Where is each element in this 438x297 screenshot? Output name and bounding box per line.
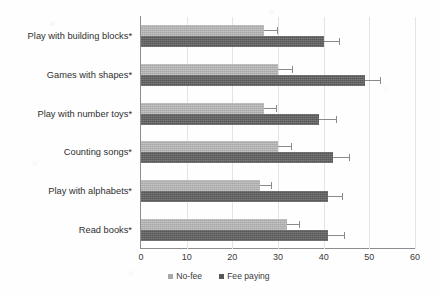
bar-feepaying [141,75,365,86]
category-label: Play with building blocks* [0,31,132,41]
error-bar-whisker [278,69,292,70]
category-label: Read books* [0,225,132,235]
legend-item-nofee: No-fee [168,271,202,281]
error-bar-whisker [319,119,335,120]
bar-group [141,94,415,133]
error-bar-whisker [278,146,291,147]
error-bar-cap [291,143,292,150]
error-bar-whisker [328,235,344,236]
category-label: Play with number toys* [0,109,132,119]
x-tick-label-30: 30 [273,252,283,262]
bar-feepaying [141,36,324,47]
bar-nofee [141,219,287,230]
bar-feepaying [141,230,328,241]
bar-nofee [141,103,264,114]
error-bar-whisker [264,30,276,31]
x-tick-label-10: 10 [182,252,192,262]
error-bar-cap [380,77,381,84]
error-bar-whisker [328,196,342,197]
category-axis-labels: Play with building blocks*Games with sha… [0,17,136,249]
bar-feepaying [141,114,319,125]
gridline-60 [415,17,416,249]
x-tick-label-0: 0 [138,252,143,262]
value-axis-tick-labels: 0102030405060 [141,252,415,266]
bar-nofee [141,25,264,36]
error-bar-whisker [365,80,380,81]
category-label: Play with alphabets* [0,186,132,196]
error-bar-cap [277,27,278,34]
bar-group [141,172,415,211]
bar-chart-figure: Play with building blocks*Games with sha… [0,0,438,297]
nofee-swatch [168,274,173,279]
bar-feepaying [141,191,328,202]
error-bar-cap [342,193,343,200]
x-tick-label-40: 40 [319,252,329,262]
error-bar-whisker [260,185,271,186]
error-bar-cap [292,66,293,73]
bar-group [141,56,415,95]
error-bar-cap [339,38,340,45]
error-bar-whisker [264,108,276,109]
legend-label: No-fee [176,271,202,281]
error-bar-whisker [333,157,349,158]
error-bar-cap [299,221,300,228]
bar-feepaying [141,152,333,163]
category-label: Games with shapes* [0,70,132,80]
x-tick-label-50: 50 [364,252,374,262]
bar-group [141,133,415,172]
x-tick-label-60: 60 [410,252,420,262]
plot-area [141,17,415,249]
bar-group [141,17,415,56]
category-label: Counting songs* [0,147,132,157]
error-bar-cap [344,232,345,239]
legend-label: Fee paying [227,271,270,281]
error-bar-cap [271,182,272,189]
error-bar-cap [276,105,277,112]
error-bar-whisker [287,224,299,225]
error-bar-cap [349,154,350,161]
bar-nofee [141,64,278,75]
bar-nofee [141,180,260,191]
x-tick-label-20: 20 [227,252,237,262]
legend-item-feepaying: Fee paying [219,271,270,281]
error-bar-cap [336,116,337,123]
bar-nofee [141,141,278,152]
error-bar-whisker [324,41,340,42]
feepaying-swatch [219,274,224,279]
bar-group [141,210,415,249]
chart-legend: No-feeFee paying [0,271,438,281]
